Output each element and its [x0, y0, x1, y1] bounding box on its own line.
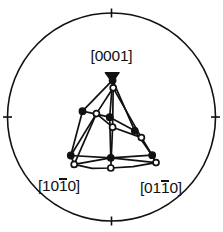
marker-filled-2: [106, 114, 113, 121]
marker-open-1: [93, 111, 99, 117]
path-base-arc-open: [74, 163, 156, 169]
marker-apex-triangle-0: [105, 73, 119, 83]
index-digit-2: 0: [51, 177, 59, 194]
index-digit-3-overbar: 1: [161, 180, 169, 196]
index-digit-3: 0: [112, 47, 120, 64]
pole-label-m-axis: [0110]: [140, 180, 182, 196]
index-digit-3-overbar: 1: [59, 178, 67, 194]
bracket-close: ]: [128, 47, 132, 64]
marker-filled-1: [79, 108, 86, 115]
pole-figure-plot: [0, 0, 223, 232]
marker-open-4: [71, 161, 77, 167]
pole-label-a-axis: [1010]: [38, 178, 80, 194]
marker-filled-4: [68, 152, 75, 159]
bracket-close: ]: [76, 177, 80, 194]
path-left-open-to-base-filled: [71, 114, 97, 156]
index-digit-2: 0: [103, 47, 111, 64]
marker-open-2: [110, 124, 116, 130]
index-digit-1: 1: [42, 177, 50, 194]
index-digit-1: 0: [95, 47, 103, 64]
marker-open-3: [138, 135, 144, 141]
index-digit-4: 0: [67, 177, 75, 194]
bracket-close: ]: [178, 179, 182, 196]
marker-filled-3: [132, 128, 139, 135]
index-digit-4: 0: [169, 179, 177, 196]
path-base-right-open-chord: [111, 158, 156, 163]
marker-open-5: [108, 165, 114, 171]
index-digit-1: 0: [144, 179, 152, 196]
index-digit-2: 1: [153, 179, 161, 196]
marker-filled-5: [108, 155, 115, 162]
pole-figure-container: [0001] [1010] [0110]: [0, 0, 223, 232]
path-base-left-open-chord: [74, 158, 111, 165]
marker-open-0: [110, 85, 116, 91]
pole-label-c-axis: [0001]: [0, 48, 223, 64]
marker-open-6: [153, 160, 159, 166]
marker-filled-6: [149, 152, 156, 159]
